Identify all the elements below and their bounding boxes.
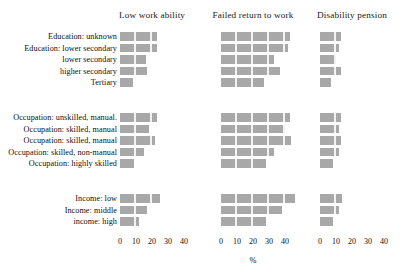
bar — [320, 148, 339, 157]
bar — [320, 78, 331, 87]
chart-row: Occupation: unskilled, manual. — [0, 112, 410, 123]
chart-row: Occupation: skilled, manual — [0, 135, 410, 146]
row-label: Occupation: skilled, non-manual — [0, 147, 117, 158]
bar — [320, 194, 342, 203]
x-tick: 10 — [329, 236, 343, 248]
bar — [221, 148, 274, 157]
bar — [120, 136, 155, 145]
bar — [221, 206, 282, 215]
bar — [320, 32, 341, 41]
chart-row: Income: low — [0, 193, 410, 204]
bar — [320, 206, 339, 215]
bar — [120, 32, 157, 41]
figure: Low work abilityFailed return to workDis… — [0, 0, 410, 277]
chart-row: Occupation: highly skilled — [0, 158, 410, 169]
row-label: lower secondary — [0, 54, 117, 65]
bar — [120, 125, 149, 134]
bar — [320, 159, 333, 168]
bar — [120, 217, 139, 226]
chart-row: Occupation: skilled, manual — [0, 124, 410, 135]
bar — [221, 159, 266, 168]
chart-row: Income: middle — [0, 205, 410, 216]
row-label: Occupation: highly skilled — [0, 158, 117, 169]
x-tick: 40 — [377, 236, 391, 248]
bar — [320, 113, 341, 122]
x-tick: 0 — [313, 236, 327, 248]
x-tick: 30 — [361, 236, 375, 248]
row-label: Income: low — [0, 193, 117, 204]
chart-row: Education: lower secondary — [0, 43, 410, 54]
bar — [120, 206, 147, 215]
bar — [120, 55, 146, 64]
bar — [320, 44, 339, 53]
bar — [221, 32, 290, 41]
bar — [221, 125, 285, 134]
bar — [320, 67, 341, 76]
bar — [221, 194, 295, 203]
bar — [120, 113, 157, 122]
row-label: Education: lower secondary — [0, 43, 117, 54]
bar — [221, 44, 288, 53]
row-label: Occupation: skilled, manual — [0, 135, 117, 146]
chart-row: income: high — [0, 216, 410, 227]
row-label: income: high — [0, 216, 117, 227]
chart-row: Education: unknown — [0, 31, 410, 42]
bar — [320, 217, 333, 226]
row-label: Income: middle — [0, 205, 117, 216]
bar — [120, 78, 133, 87]
row-label: Education: unknown — [0, 31, 117, 42]
chart-row: higher secondary — [0, 66, 410, 77]
bar — [221, 78, 264, 87]
row-label: Tertiary — [0, 77, 117, 88]
row-label: Occupation: skilled, manual — [0, 124, 117, 135]
bar — [120, 194, 160, 203]
bar — [221, 136, 291, 145]
bar — [320, 55, 336, 64]
bar — [120, 67, 147, 76]
row-label: Occupation: unskilled, manual. — [0, 112, 117, 123]
bar — [221, 217, 266, 226]
chart-row: Occupation: skilled, non-manual — [0, 147, 410, 158]
x-axis-panel-3: 010203040 — [0, 236, 410, 248]
bar — [221, 67, 280, 76]
bar — [120, 159, 134, 168]
x-axes: 010203040010203040010203040 — [0, 236, 410, 248]
bar — [320, 136, 341, 145]
bar — [320, 125, 339, 134]
x-tick: 20 — [345, 236, 359, 248]
bar — [120, 148, 144, 157]
row-label: higher secondary — [0, 66, 117, 77]
chart-row: Tertiary — [0, 77, 410, 88]
chart-row: lower secondary — [0, 54, 410, 65]
bar — [221, 113, 290, 122]
x-axis-label: % — [243, 256, 263, 265]
bar — [120, 44, 157, 53]
bar — [221, 55, 274, 64]
